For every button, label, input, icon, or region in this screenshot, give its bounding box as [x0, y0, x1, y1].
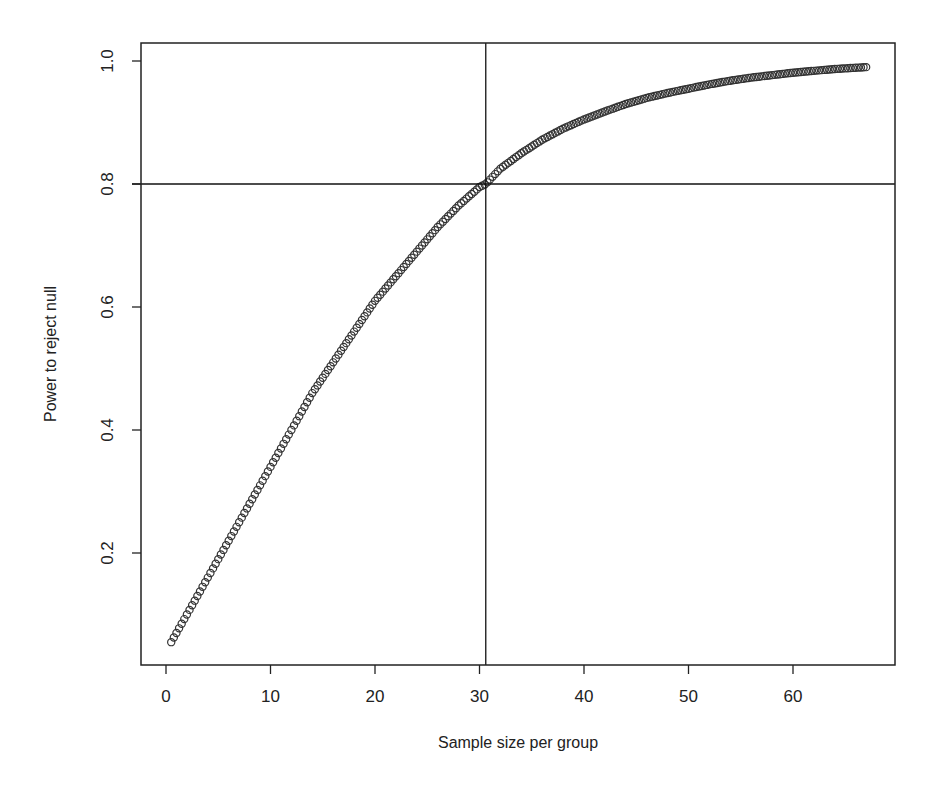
x-tick-label: 40 — [575, 687, 594, 706]
y-axis-title: Power to reject null — [42, 286, 59, 422]
y-tick-label: 0.4 — [98, 418, 117, 442]
x-tick-label: 50 — [679, 687, 698, 706]
chart-background — [0, 0, 933, 797]
y-tick-label: 0.8 — [98, 172, 117, 196]
power-curve-chart: 0102030405060 0.20.40.60.81.0 Sample siz… — [0, 0, 933, 797]
x-tick-label: 30 — [470, 687, 489, 706]
x-axis-title: Sample size per group — [438, 734, 598, 751]
x-tick-label: 60 — [784, 687, 803, 706]
y-tick-label: 0.2 — [98, 541, 117, 565]
y-tick-label: 1.0 — [98, 49, 117, 73]
x-tick-label: 0 — [161, 687, 170, 706]
x-tick-label: 20 — [366, 687, 385, 706]
y-tick-label: 0.6 — [98, 295, 117, 319]
x-tick-label: 10 — [261, 687, 280, 706]
